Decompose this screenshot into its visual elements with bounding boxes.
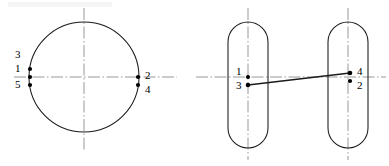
label-left-view-4: 4 bbox=[145, 84, 151, 95]
point-dot-q4 bbox=[348, 71, 353, 76]
label-right-view-3: 3 bbox=[236, 80, 242, 91]
label-left-view-1: 1 bbox=[15, 63, 21, 74]
drawing-canvas: 3 1 5 2 4 1 3 4 2 bbox=[0, 0, 389, 166]
point-dot-1 bbox=[28, 67, 32, 71]
left-view-group bbox=[14, 8, 177, 150]
point-dot-q3 bbox=[246, 83, 251, 88]
point-dot-q2 bbox=[348, 79, 352, 83]
point-dot-4 bbox=[136, 83, 140, 87]
point-dot-5 bbox=[28, 83, 32, 87]
point-dot-axis-left bbox=[28, 75, 32, 79]
technical-drawing-svg bbox=[0, 0, 389, 166]
label-left-view-3: 3 bbox=[15, 49, 21, 60]
connector-line bbox=[248, 73, 350, 85]
label-left-view-5: 5 bbox=[15, 79, 21, 90]
label-right-view-1: 1 bbox=[236, 66, 242, 77]
label-right-view-2: 2 bbox=[357, 80, 363, 91]
point-dot-q1 bbox=[246, 75, 250, 79]
point-dot-2 bbox=[136, 75, 140, 79]
label-right-view-4: 4 bbox=[357, 66, 363, 77]
label-left-view-2: 2 bbox=[145, 70, 151, 81]
